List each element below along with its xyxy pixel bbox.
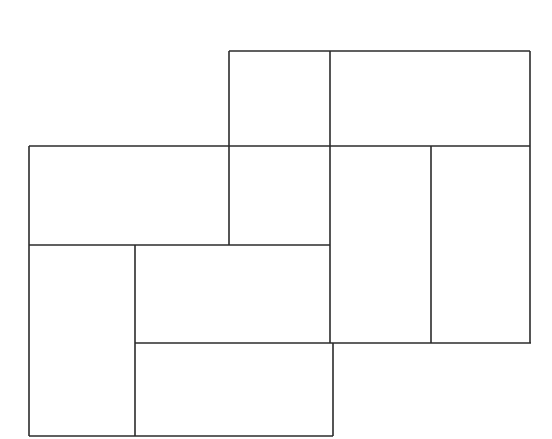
tile-right-outer-tall [431,146,530,343]
tile-left-upper-wide [29,146,330,245]
figure-stage: Pinwheel rectangle tiling A plain line d… [0,0,552,439]
rectangle-tiling-figure: Pinwheel rectangle tiling A plain line d… [0,0,552,439]
tile-bottom-center-wide [135,343,333,436]
tile-right-middle-tall [330,146,431,343]
tile-left-lower-tall [29,245,135,436]
tile-center-middle-wide [135,245,330,343]
tile-top-right-wide [330,51,530,146]
